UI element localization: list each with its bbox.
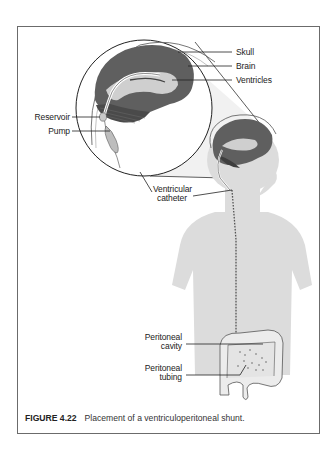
- shunt-illustration: [0, 0, 333, 462]
- colon: [220, 330, 283, 400]
- reservoir-shape: [100, 113, 107, 121]
- label-ventricular-catheter-2: catheter: [157, 194, 187, 203]
- label-ventricles: Ventricles: [236, 76, 272, 85]
- label-peritoneal-tubing-2: tubing: [120, 373, 182, 382]
- label-reservoir: Reservoir: [24, 113, 70, 122]
- figure-caption-text: Placement of a ventriculoperitoneal shun…: [85, 413, 245, 423]
- label-pump: Pump: [24, 127, 70, 136]
- label-brain: Brain: [236, 62, 255, 71]
- label-skull: Skull: [236, 48, 254, 57]
- figure-caption: FIGURE 4.22Placement of a ventriculoperi…: [25, 413, 295, 424]
- figure-number: FIGURE 4.22: [25, 413, 77, 423]
- label-peritoneal-cavity-2: cavity: [120, 342, 182, 351]
